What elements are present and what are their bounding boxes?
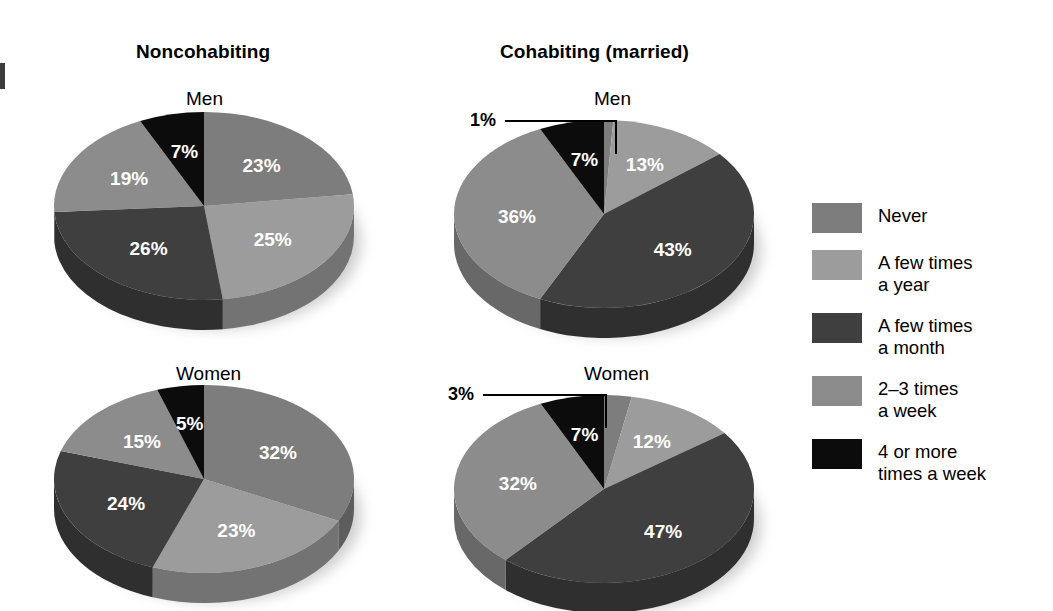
pie-svg: 23%25%26%19%7% [52, 110, 382, 325]
subtitle-noncohabiting-men: Men [186, 88, 223, 110]
legend-swatch [812, 313, 862, 343]
pie-chart-cohabiting-women: 12%47%32%7% [452, 393, 782, 608]
pie-slice-value-label: 23% [217, 520, 255, 541]
legend-swatch [812, 439, 862, 469]
pie-slice-value-label: 5% [176, 413, 204, 434]
legend-item: A few times a year [812, 250, 1042, 296]
pie-slice-value-label: 12% [633, 431, 671, 452]
pie-slice-value-label: 32% [499, 473, 537, 494]
pie-chart-noncohabiting-women: 32%23%24%15%5% [52, 383, 382, 598]
pie-slice-value-label: 25% [254, 229, 292, 250]
subtitle-cohabiting-men: Men [594, 88, 631, 110]
column-title-cohabiting: Cohabiting (married) [500, 41, 689, 63]
legend-swatch [812, 203, 862, 233]
pie-slice-value-label: 32% [259, 442, 297, 463]
callout-label-cohabiting-men-never: 1% [470, 110, 496, 131]
pie-svg: 32%23%24%15%5% [52, 383, 382, 598]
legend-label: 2–3 times a week [878, 378, 958, 422]
pie-slice-value-label: 7% [571, 424, 599, 445]
callout-label-cohabiting-women-never: 3% [448, 384, 474, 405]
pie-svg: 12%47%32%7% [452, 393, 782, 608]
legend-item: 2–3 times a week [812, 376, 1042, 422]
subtitle-noncohabiting-women: Women [176, 363, 241, 385]
pie-slice-value-label: 36% [498, 206, 536, 227]
pie-slice-value-label: 7% [571, 149, 599, 170]
legend-label: 4 or more times a week [878, 441, 986, 485]
figure-canvas: Noncohabiting Cohabiting (married) Men M… [0, 0, 1053, 611]
pie-slice-value-label: 7% [171, 141, 199, 162]
pie-slice-value-label: 26% [130, 238, 168, 259]
pie-chart-cohabiting-men: 13%43%36%7% [452, 118, 782, 333]
pie-svg: 13%43%36%7% [452, 118, 782, 333]
pie-slice-value-label: 13% [626, 154, 664, 175]
pie-top [54, 112, 354, 300]
pie-slice-value-label: 24% [107, 493, 145, 514]
legend-label: Never [878, 205, 927, 227]
legend-item: A few times a month [812, 313, 1042, 359]
legend-label: A few times a year [878, 252, 973, 296]
legend: NeverA few times a yearA few times a mon… [812, 203, 1042, 502]
pie-slice-value-label: 47% [644, 521, 682, 542]
pie-slice-value-label: 15% [123, 431, 161, 452]
legend-item: 4 or more times a week [812, 439, 1042, 485]
pie-slice-value-label: 19% [110, 168, 148, 189]
legend-label: A few times a month [878, 315, 973, 359]
pie-top [54, 385, 354, 573]
legend-item: Never [812, 203, 1042, 233]
pie-chart-noncohabiting-men: 23%25%26%19%7% [52, 110, 382, 325]
pie-slice-value-label: 43% [654, 239, 692, 260]
subtitle-cohabiting-women: Women [584, 363, 649, 385]
page-edge-artifact [0, 63, 5, 89]
legend-swatch [812, 376, 862, 406]
pie-slice-value-label: 23% [243, 155, 281, 176]
column-title-noncohabiting: Noncohabiting [136, 41, 270, 63]
legend-swatch [812, 250, 862, 280]
